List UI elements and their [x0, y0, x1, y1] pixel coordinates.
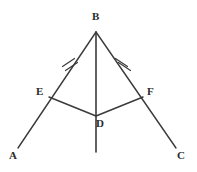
segment-DF [96, 97, 143, 116]
segment-BC [96, 32, 176, 148]
vertex-label-E: E [36, 86, 43, 97]
segment-BA [18, 32, 96, 148]
geometry-diagram: B E F D A C [0, 0, 197, 172]
vertex-label-A: A [9, 150, 17, 161]
segment-ED [49, 97, 96, 116]
vertex-label-C: C [177, 150, 185, 161]
tick-mark-BE [63, 59, 78, 71]
vertex-label-B: B [92, 11, 99, 22]
vertex-label-F: F [147, 86, 154, 97]
geometry-canvas [0, 0, 197, 172]
vertex-label-D: D [96, 118, 104, 129]
